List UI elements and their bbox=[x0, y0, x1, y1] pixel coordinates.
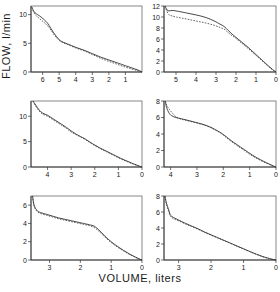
y-tick-label: 0 bbox=[23, 69, 27, 76]
y-tick-label: 2 bbox=[156, 241, 160, 248]
y-tick-label: 0 bbox=[23, 164, 27, 171]
y-tick-label: 6 bbox=[156, 36, 160, 43]
x-tick-label: 3 bbox=[177, 264, 181, 271]
panel-top-right: 543210024681012 bbox=[152, 2, 278, 90]
y-tick-label: 2 bbox=[156, 147, 160, 154]
y-tick-label: 8 bbox=[156, 25, 160, 32]
x-tick-label: 0 bbox=[274, 264, 278, 271]
panel-middle-right: 4321002468 bbox=[152, 97, 278, 185]
x-tick-label: 3 bbox=[90, 76, 94, 83]
x-tick-label: 3 bbox=[48, 264, 52, 271]
flow-volume-curve-dotted bbox=[33, 101, 142, 167]
axis-lines bbox=[164, 196, 276, 260]
flow-volume-curve-dotted bbox=[33, 196, 142, 260]
axis-lines bbox=[31, 196, 142, 260]
x-tick-label: 1 bbox=[248, 171, 252, 178]
x-tick-label: 2 bbox=[78, 264, 82, 271]
x-tick-label: 2 bbox=[209, 264, 213, 271]
flow-volume-curve-solid bbox=[165, 6, 276, 72]
x-tick-label: 1 bbox=[116, 171, 120, 178]
panel-frame bbox=[31, 196, 142, 260]
flow-volume-curve-dotted bbox=[165, 6, 276, 72]
x-tick-label: 3 bbox=[69, 171, 73, 178]
y-tick-label: 6 bbox=[156, 209, 160, 216]
flow-volume-curve-dotted bbox=[32, 7, 142, 72]
y-axis-label: FLOW, l/min bbox=[0, 0, 16, 96]
panel-frame bbox=[31, 6, 142, 72]
flow-volume-curve-solid bbox=[32, 7, 142, 72]
flow-volume-figure: FLOW, l/min 6543210510 543210024681012 4… bbox=[0, 0, 280, 292]
x-tick-label: 4 bbox=[74, 76, 78, 83]
plot-area: 321002468 bbox=[152, 192, 278, 274]
x-tick-label: 0 bbox=[140, 171, 144, 178]
x-tick-label: 0 bbox=[274, 76, 278, 83]
axis-lines bbox=[164, 6, 276, 72]
panel-bottom-right: 321002468 bbox=[152, 192, 278, 274]
x-tick-label: 4 bbox=[169, 171, 173, 178]
x-axis-label: VOLUME, liters bbox=[0, 272, 280, 284]
y-tick-label: 0 bbox=[156, 164, 160, 171]
flow-volume-curve-dotted bbox=[165, 101, 276, 167]
y-tick-label: 8 bbox=[156, 193, 160, 200]
panel-bottom-left: 32100246 bbox=[20, 192, 144, 274]
plot-area: 432100510 bbox=[20, 97, 144, 185]
flow-volume-curve-solid bbox=[33, 101, 142, 167]
x-tick-label: 5 bbox=[174, 76, 178, 83]
panel-top-left: 6543210510 bbox=[20, 2, 144, 90]
x-tick-label: 2 bbox=[221, 171, 225, 178]
axis-lines bbox=[31, 6, 142, 72]
panel-middle-left: 432100510 bbox=[20, 97, 144, 185]
x-tick-label: 3 bbox=[195, 171, 199, 178]
y-tick-label: 5 bbox=[23, 40, 27, 47]
x-tick-label: 1 bbox=[109, 264, 113, 271]
flow-volume-curve-solid bbox=[165, 196, 276, 260]
panel-frame bbox=[164, 6, 276, 72]
plot-area: 6543210510 bbox=[20, 2, 144, 90]
x-tick-label: 2 bbox=[93, 171, 97, 178]
y-tick-label: 2 bbox=[23, 238, 27, 245]
y-tick-label: 4 bbox=[23, 220, 27, 227]
flow-volume-curve-dotted bbox=[165, 196, 276, 260]
y-tick-label: 0 bbox=[156, 69, 160, 76]
x-tick-label: 2 bbox=[234, 76, 238, 83]
y-tick-label: 0 bbox=[23, 257, 27, 264]
x-tick-label: 6 bbox=[41, 76, 45, 83]
flow-volume-curve-solid bbox=[33, 196, 142, 260]
x-tick-label: 4 bbox=[46, 171, 50, 178]
plot-area: 4321002468 bbox=[152, 97, 278, 185]
x-tick-label: 2 bbox=[107, 76, 111, 83]
y-tick-label: 4 bbox=[156, 131, 160, 138]
axis-lines bbox=[164, 101, 276, 167]
y-tick-label: 8 bbox=[156, 98, 160, 105]
x-tick-label: 3 bbox=[214, 76, 218, 83]
flow-volume-curve-solid bbox=[165, 101, 276, 167]
panel-frame bbox=[164, 196, 276, 260]
y-tick-label: 10 bbox=[19, 113, 27, 120]
x-tick-label: 1 bbox=[123, 76, 127, 83]
plot-area: 32100246 bbox=[20, 192, 144, 274]
y-tick-label: 5 bbox=[23, 138, 27, 145]
y-tick-label: 6 bbox=[156, 114, 160, 121]
x-tick-label: 1 bbox=[254, 76, 258, 83]
x-tick-label: 4 bbox=[194, 76, 198, 83]
y-tick-label: 6 bbox=[23, 202, 27, 209]
y-tick-label: 0 bbox=[156, 257, 160, 264]
x-tick-label: 0 bbox=[140, 264, 144, 271]
panel-frame bbox=[31, 101, 142, 167]
y-tick-label: 2 bbox=[156, 58, 160, 65]
x-tick-label: 1 bbox=[242, 264, 246, 271]
y-tick-label: 10 bbox=[152, 14, 160, 21]
x-tick-label: 5 bbox=[57, 76, 61, 83]
y-tick-label: 12 bbox=[152, 3, 160, 10]
x-tick-label: 0 bbox=[274, 171, 278, 178]
plot-area: 543210024681012 bbox=[152, 2, 278, 90]
panel-frame bbox=[164, 101, 276, 167]
y-tick-label: 4 bbox=[156, 225, 160, 232]
y-tick-label: 10 bbox=[19, 11, 27, 18]
y-tick-label: 4 bbox=[156, 47, 160, 54]
y-axis-label-wrap: FLOW, l/min bbox=[2, 0, 18, 292]
axis-lines bbox=[31, 101, 142, 167]
